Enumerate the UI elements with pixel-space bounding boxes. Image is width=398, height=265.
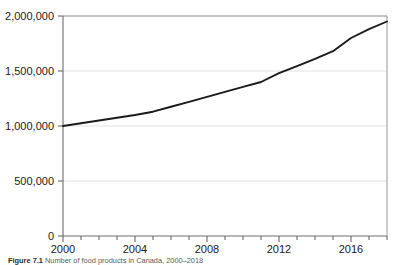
y-tick-label-500000: 500,000 [14, 175, 54, 187]
x-tick-label-2000: 2000 [51, 243, 75, 255]
y-tick-label-1000000: 1,000,000 [5, 120, 54, 132]
figure-caption-label: Figure 7.1 [8, 256, 43, 265]
chart-background [0, 0, 398, 265]
y-tick-label-1500000: 1,500,000 [5, 65, 54, 77]
figure-container: 0500,0001,000,0001,500,0002,000,000 2000… [0, 0, 398, 265]
x-tick-label-2012: 2012 [267, 243, 291, 255]
x-tick-label-2016: 2016 [339, 243, 363, 255]
x-tick-label-2004: 2004 [123, 243, 147, 255]
y-tick-label-2000000: 2,000,000 [5, 10, 54, 22]
figure-caption-text: Number of food products in Canada, 2000–… [45, 256, 203, 265]
x-tick-label-2008: 2008 [195, 243, 219, 255]
figure-caption: Figure 7.1 Number of food products in Ca… [8, 256, 203, 265]
line-chart: 0500,0001,000,0001,500,0002,000,000 2000… [0, 0, 398, 265]
y-tick-label-0: 0 [48, 230, 54, 242]
